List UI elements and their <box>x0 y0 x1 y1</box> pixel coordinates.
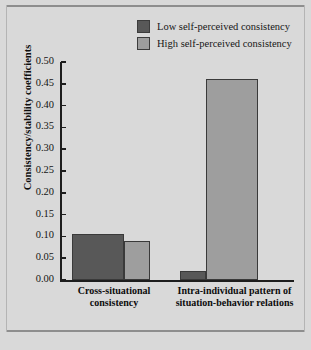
bar-1-1 <box>206 79 258 280</box>
y-axis-tick-label: 0.45 <box>14 77 54 88</box>
plot-area <box>61 62 293 280</box>
y-axis-tick-label: 0.50 <box>14 55 54 66</box>
y-axis-tick-label: 0.25 <box>14 164 54 175</box>
bar-1-0 <box>124 241 150 280</box>
legend-label-low: Low self-perceived consistency <box>157 21 290 32</box>
y-axis-tick-label: 0.35 <box>14 120 54 131</box>
y-axis-tick-label: 0.30 <box>14 142 54 153</box>
y-axis-tick-label: 0.00 <box>14 273 54 284</box>
legend-swatch-high-icon <box>137 37 150 50</box>
legend-label-high: High self-perceived consistency <box>157 38 292 49</box>
x-axis-category-label-1: Intra-individual pattern of situation-be… <box>172 285 297 308</box>
legend-swatch-low-icon <box>137 20 150 33</box>
x-axis-category-label-0: Cross-situational consistency <box>58 285 170 308</box>
figure-canvas: Low self-perceived consistency High self… <box>0 0 311 350</box>
y-axis-tick-label: 0.20 <box>14 186 54 197</box>
y-axis-tick-label: 0.40 <box>14 99 54 110</box>
figure-border-top <box>6 5 305 7</box>
chart-legend: Low self-perceived consistency High self… <box>137 19 292 53</box>
figure-border-right <box>304 5 305 332</box>
bar-0-0 <box>72 234 124 280</box>
legend-item-low: Low self-perceived consistency <box>137 19 292 34</box>
figure-border-left <box>6 5 7 332</box>
bar-0-1 <box>180 271 206 280</box>
y-axis-tick-label: 0.10 <box>14 229 54 240</box>
y-axis-tick-label: 0.15 <box>14 208 54 219</box>
legend-item-high: High self-perceived consistency <box>137 36 292 51</box>
y-axis-tick-label: 0.05 <box>14 251 54 262</box>
figure-border-bottom <box>6 330 305 332</box>
y-axis-title: Consistency/stability coefficients <box>22 23 33 213</box>
x-axis-line <box>60 280 294 282</box>
